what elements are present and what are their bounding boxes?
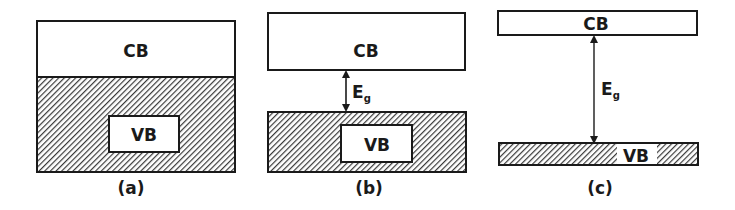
- panel-c: CB VB Eg (c): [498, 11, 698, 198]
- vb-label-c: VB: [623, 146, 649, 166]
- band-diagram: CB VB (a) CB VB Eg (b) CB VB Eg (c): [0, 0, 735, 210]
- panel-a: CB VB (a): [37, 21, 235, 198]
- vb-label-a: VB: [131, 125, 157, 145]
- vb-band-c: [499, 143, 698, 165]
- caption-b: (b): [355, 178, 383, 198]
- cb-label-c: CB: [583, 14, 608, 34]
- gap-label-b: Eg: [352, 82, 371, 104]
- cb-label-a: CB: [123, 41, 148, 61]
- vb-label-b: VB: [364, 135, 390, 155]
- caption-c: (c): [587, 178, 613, 198]
- gap-label-c: Eg: [601, 79, 620, 101]
- panel-b: CB VB Eg (b): [268, 13, 466, 198]
- caption-a: (a): [117, 178, 144, 198]
- cb-label-b: CB: [353, 41, 378, 61]
